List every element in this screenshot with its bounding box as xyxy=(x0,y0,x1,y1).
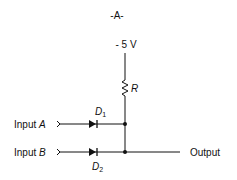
junction-dot-a xyxy=(123,122,127,126)
diode-gate-diagram: -A- - 5 V R Input A D1 Input B D2 Output xyxy=(0,0,237,180)
output-label: Output xyxy=(190,147,220,158)
diode-d2-label: D2 xyxy=(92,161,103,173)
resistor-icon xyxy=(122,80,128,96)
input-a-arrow-icon xyxy=(57,121,60,127)
junction-dot-b xyxy=(123,150,127,154)
diode-d2-icon xyxy=(89,148,96,156)
resistor-label: R xyxy=(131,83,138,94)
input-b-arrow-icon xyxy=(57,149,60,155)
input-b-label: Input B xyxy=(14,147,46,158)
supply-voltage-label: - 5 V xyxy=(115,39,136,50)
diode-d1-label: D1 xyxy=(95,106,106,118)
figure-label: -A- xyxy=(110,10,123,21)
input-a-label: Input A xyxy=(14,119,46,130)
diode-d1-icon xyxy=(89,120,96,128)
